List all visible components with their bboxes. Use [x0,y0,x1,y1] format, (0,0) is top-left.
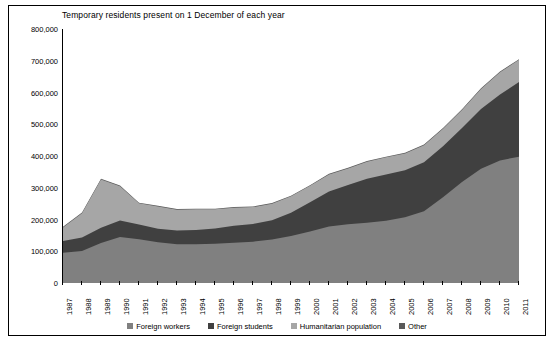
x-axis-tick-mark [461,281,462,285]
x-axis-tick-label: 2003 [369,298,378,315]
x-axis-tick-label: 1995 [217,298,226,315]
x-axis-tick-mark [442,281,443,285]
x-axis-tick-mark [518,281,519,285]
legend-item: Foreign workers [127,321,190,331]
x-axis-tick-label: 1992 [160,298,169,315]
x-axis-tick-mark [404,281,405,285]
y-axis-tick-label: 0 [54,279,58,288]
x-axis-tick-label: 1987 [65,298,74,315]
x-axis-labels: 1987198819891990199119921993199419951996… [62,285,518,325]
x-axis-tick-mark [62,281,63,285]
x-axis-tick-label: 1989 [103,298,112,315]
x-axis-tick-label: 2008 [464,298,473,315]
y-axis-tick-label: 200,000 [31,215,58,224]
legend-item: Other [399,321,427,331]
x-axis-tick-label: 2010 [502,298,511,315]
chart-legend: Foreign workersForeign studentsHumanitar… [0,321,554,331]
x-axis-tick-label: 2006 [426,298,435,315]
legend-label: Other [408,322,427,331]
y-axis-tick-label: 800,000 [31,25,58,34]
x-axis-tick-mark [119,281,120,285]
x-axis-tick-label: 1991 [141,298,150,315]
x-axis-tick-label: 2000 [312,298,321,315]
y-axis-tick-label: 300,000 [31,183,58,192]
x-axis-tick-mark [423,281,424,285]
legend-swatch-icon [291,323,297,329]
x-axis-tick-label: 2002 [350,298,359,315]
x-axis-tick-label: 1999 [293,298,302,315]
y-axis-tick-label: 500,000 [31,120,58,129]
x-axis-tick-label: 1990 [122,298,131,315]
x-axis-tick-mark [157,281,158,285]
x-axis-tick-label: 2011 [521,299,530,315]
x-axis-tick-label: 1996 [236,298,245,315]
x-axis-tick-label: 1994 [198,298,207,315]
x-axis-tick-label: 2007 [445,298,454,315]
x-axis-tick-label: 1997 [255,298,264,315]
x-axis-tick-label: 2005 [407,298,416,315]
x-axis-tick-mark [347,281,348,285]
plot-area [62,29,518,283]
legend-item: Humanitarian population [291,321,381,331]
y-axis-tick-label: 700,000 [31,56,58,65]
x-axis-tick-label: 1988 [84,298,93,315]
legend-swatch-icon [127,323,133,329]
chart-container: Temporary residents present on 1 Decembe… [0,0,554,341]
x-axis-tick-mark [366,281,367,285]
x-axis-tick-label: 2009 [483,298,492,315]
x-axis-tick-mark [195,281,196,285]
x-axis-tick-label: 2004 [388,298,397,315]
y-axis-tick-label: 600,000 [31,88,58,97]
chart-title: Temporary residents present on 1 Decembe… [62,10,285,20]
x-axis-tick-mark [81,281,82,285]
x-axis-tick-mark [480,281,481,285]
x-axis-tick-mark [214,281,215,285]
x-axis-tick-mark [233,281,234,285]
x-axis-tick-mark [328,281,329,285]
legend-label: Foreign students [217,322,273,331]
y-axis-tick-label: 100,000 [31,247,58,256]
x-axis-tick-mark [385,281,386,285]
x-axis-tick-label: 1993 [179,298,188,315]
x-axis-tick-label: 2001 [331,298,340,315]
legend-label: Foreign workers [136,322,190,331]
x-axis-tick-mark [138,281,139,285]
x-axis-tick-mark [309,281,310,285]
y-axis-tick-label: 400,000 [31,152,58,161]
legend-swatch-icon [399,323,405,329]
x-axis-tick-mark [499,281,500,285]
x-axis-tick-mark [176,281,177,285]
x-axis-tick-mark [271,281,272,285]
x-axis-tick-label: 1998 [274,298,283,315]
x-axis-tick-mark [100,281,101,285]
legend-swatch-icon [208,323,214,329]
x-axis-tick-mark [290,281,291,285]
x-axis-tick-mark [252,281,253,285]
y-axis-labels: 0100,000200,000300,000400,000500,000600,… [0,29,58,283]
legend-item: Foreign students [208,321,273,331]
stacked-area-series [63,29,519,283]
legend-label: Humanitarian population [300,322,381,331]
